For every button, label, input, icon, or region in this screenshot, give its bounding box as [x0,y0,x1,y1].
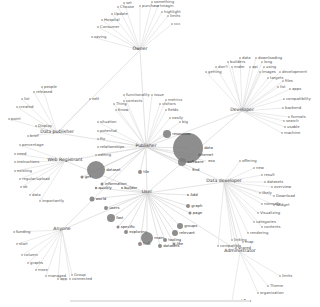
leaf-node-label: Fix [100,136,106,141]
leaf-node-dot [281,132,282,133]
leaf-node-label: targets [270,75,284,80]
leaf-node-dot [167,15,168,16]
leaf-node-label: compatibility [286,96,311,101]
leaf-node-label: more [38,267,48,272]
leaf-node-label: usable [287,124,300,129]
leaf-node-label: created [19,104,34,109]
leaf-node-dot [259,71,260,72]
leaf-node-label: tmagin [160,3,174,8]
term-bubble [117,226,120,229]
term-bubble [178,158,186,166]
leaf-node-dot [97,130,98,131]
term-bubble [187,194,189,196]
term-bubble-label: hub [143,241,151,246]
leaf-node-label: column [24,252,39,257]
hub-node-anyone: Anyone [53,226,70,231]
leaf-node-dot [227,61,228,62]
leaf-node-label: start [19,241,28,246]
hub-node-web-registrant: Web Registrant [47,157,82,162]
leaf-node-label: instructions [17,159,39,164]
hub-node-data-publisher: Data publisher [40,129,74,134]
leaf-node-dot [263,66,264,67]
leaf-node-label: limits [282,273,292,278]
leaf-node-dot [283,98,284,99]
leaf-node-label: make [234,64,245,69]
leaf-node-dot [16,243,17,244]
network-diagram: datadatasetresourcessoftwareinternetecoE… [0,0,320,307]
leaf-edge [28,230,62,263]
leaf-node-label: percentage [22,142,44,147]
leaf-node-dot [165,109,166,110]
leaf-node-label: need [17,151,27,156]
leaf-node-label: fields [168,107,178,112]
leaf-node-label: saving [94,34,107,39]
leaf-node-dot [35,125,36,126]
leaf-node-label: images [262,69,276,74]
leaf-node-label: list [24,96,30,101]
hub-node-publisher: Publisher [135,143,156,148]
bubble-edge [140,147,146,172]
leaf-node-dot [159,103,160,104]
leaf-node-label: ok [23,184,28,189]
leaf-node-dot [273,195,274,196]
term-bubble-label: users [109,205,119,210]
leaf-node-label: graphs [30,260,43,265]
leaf-node-dot [97,26,98,27]
leaf-node-dot [261,61,262,62]
hub-node-user: User [142,189,153,194]
leaf-node-dot [253,221,254,222]
leaf-node-dot [283,120,284,121]
leaf-edge [62,230,70,279]
leaf-node-dot [113,103,114,104]
leaf-node-label: existing [17,168,32,173]
leaf-node-dot [267,77,268,78]
leaf-node-dot [277,86,278,87]
leaf-node-label: files [285,78,293,83]
term-bubble-label: Add [190,192,198,197]
hub-node-data-developer: Data developer [206,178,242,183]
leaf-node-label: Download [276,193,295,198]
term-bubble-label: internet [198,152,214,157]
leaf-node-label: new [256,165,264,170]
leaf-node-label: point [11,116,21,121]
leaf-node-label: machine [284,130,301,135]
leaf-node-label: functionality [126,92,150,97]
leaf-node-dot [21,98,22,99]
leaf-node-label: api [252,64,258,69]
leaf-node-dot [242,241,243,242]
term-bubble [107,214,115,222]
leaf-node-label: ccc [174,21,180,26]
leaf-node-dot [279,275,280,276]
leaf-node-label: data [32,192,41,197]
leaf-node-dot [289,88,290,89]
leaf-node-label: Know [118,107,128,112]
leaf-edge [232,252,240,301]
leaf-node-dot [253,167,254,168]
term-bubble-label: End [192,167,200,172]
leaf-edge [218,182,224,246]
leaf-node-dot [101,19,102,20]
leaf-node-dot [161,11,162,12]
leaf-node-dot [249,66,250,67]
leaf-node-dot [264,181,265,182]
leaf-node-dot [279,71,280,72]
leaf-edge [242,111,284,121]
term-bubble-label: page [193,210,203,215]
leaf-node-dot [257,212,258,213]
leaf-node-label: likely [262,190,273,195]
leaf-node-dot [151,94,152,95]
leaf-node-dot [69,278,70,279]
term-bubble-label: resources [172,131,190,136]
term-bubble-label: get [85,174,92,179]
leaf-node-dot [16,106,17,107]
leaf-node-label: offering [242,158,257,163]
legend-bar [70,300,250,302]
leaf-node-label: search [286,118,299,123]
leaf-node-label: Theme [269,283,284,288]
term-bubble [158,244,162,248]
leaf-node-dot [157,5,158,6]
edge-layer [9,2,290,301]
leaf-node-dot [239,160,240,161]
hub-node-administrator: Administrator [224,248,255,253]
leaf-node-label: Choose [120,4,135,9]
